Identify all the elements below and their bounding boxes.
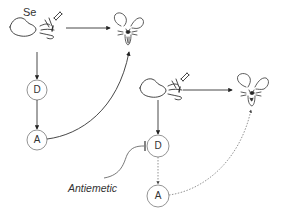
node-a-bottom-label: A <box>148 186 168 206</box>
node-a-top-label: A <box>27 130 47 150</box>
mouse-vomiting-icon-bottom <box>237 74 268 106</box>
arrow-a-to-mouse-top <box>47 52 129 139</box>
diagram-canvas <box>0 0 281 212</box>
stimulus-label-se: Se <box>23 6 36 18</box>
inhibition-line-antiemetic <box>104 146 144 178</box>
node-d-top-label: D <box>27 80 47 100</box>
dotted-arrow-a-to-mouse-bottom <box>169 110 251 195</box>
hand-stimulus-icon-bottom <box>140 73 189 100</box>
antiemetic-label: Antiemetic <box>68 182 117 194</box>
mouse-vomiting-icon-top <box>114 13 143 45</box>
node-d-bottom-label: D <box>148 136 168 156</box>
